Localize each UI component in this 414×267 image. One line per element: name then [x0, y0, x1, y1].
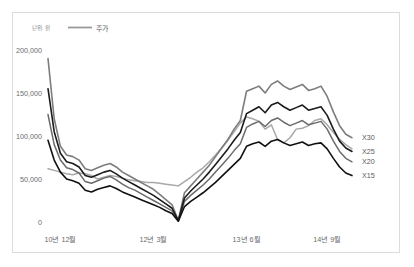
y-axis-tick-1: 50,000 — [20, 175, 42, 184]
stock-price-line-chart: 단위: 원주가 050,000100,000150,000200,000 10년… — [0, 0, 414, 267]
chart-legend: 단위: 원주가 — [32, 24, 109, 33]
series-line-X25 — [48, 89, 352, 221]
x-axis-tick-labels: 10년 12월12년 3월13년 6월14년 9월 — [44, 235, 341, 244]
x-axis-tick-2: 13년 6월 — [233, 235, 261, 244]
legend-unit-label: 단위: 원 — [32, 24, 50, 32]
y-axis-tick-3: 150,000 — [16, 89, 42, 98]
x-axis-tick-0: 10년 12월 — [44, 235, 76, 244]
y-axis-tick-2: 100,000 — [16, 132, 42, 141]
y-axis-tick-4: 200,000 — [16, 46, 42, 55]
series-end-labels: X30X25X20X15 — [362, 133, 375, 180]
series-end-label-X20: X20 — [362, 157, 375, 166]
series-end-label-X25: X25 — [362, 147, 375, 156]
series-end-label-X15: X15 — [362, 171, 375, 180]
series-line-X30 — [48, 59, 352, 221]
chart-canvas: 단위: 원주가 050,000100,000150,000200,000 10년… — [0, 0, 414, 267]
x-axis-tick-1: 12년 3월 — [139, 235, 167, 244]
data-series-lines — [48, 59, 352, 222]
series-line-X15 — [48, 139, 352, 221]
x-axis-tick-3: 14년 9월 — [313, 235, 341, 244]
y-axis-tick-0: 0 — [38, 218, 42, 227]
y-axis-tick-labels: 050,000100,000150,000200,000 — [16, 46, 42, 227]
series-line-X20 — [48, 115, 352, 221]
series-end-label-X30: X30 — [362, 133, 375, 142]
legend-label-주가: 주가 — [96, 24, 109, 33]
